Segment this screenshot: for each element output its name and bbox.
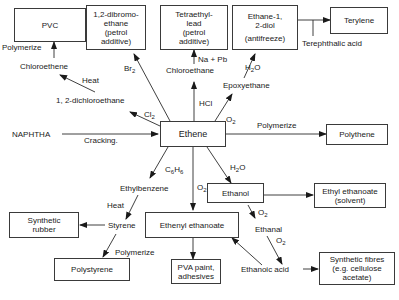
box-text-line: Synthetic xyxy=(28,216,61,225)
box-text-line: additive) xyxy=(179,37,209,46)
label-chloroethane: Chloroethane xyxy=(166,66,214,75)
label-polymerize-pvc: Polymerize xyxy=(2,43,42,52)
box-text-line: (solvent) xyxy=(335,196,366,205)
box-tetraethyl-lead: Tetraethyl- lead (petrol additive) xyxy=(160,5,228,50)
label-chloroethene: Chloroethene xyxy=(20,62,68,71)
label-o2-ethanal: O2 xyxy=(276,236,286,245)
box-text-line: Ethyl ethanoate xyxy=(322,187,378,196)
label-o2-mid: O2 xyxy=(197,183,207,192)
label-polymerize-ps: Polymerize xyxy=(115,248,155,257)
box-text-line: (petrol xyxy=(183,28,206,37)
label-h2o-mid: H2O xyxy=(230,163,245,172)
box-ethane-diol: Ethane-1, 2-diol (antifreeze) xyxy=(232,5,298,50)
label-hcl: HCl xyxy=(199,99,212,108)
box-pvc: PVC xyxy=(14,8,86,42)
label-c6h6: C6H6 xyxy=(165,165,183,174)
box-polythene: Polythene xyxy=(326,124,388,145)
box-text-line: Ethane-1, xyxy=(248,12,283,21)
box-text-line: rubber xyxy=(32,225,55,234)
label-epoxyethane: Epoxyethane xyxy=(223,81,270,90)
box-text-line: Tetraethyl- xyxy=(175,10,212,19)
box-text-line: Ethenyl ethanoate xyxy=(160,221,225,230)
box-pvc-text: PVC xyxy=(42,21,58,30)
label-dichloroethane: 1, 2-dichloroethane xyxy=(56,96,125,105)
box-text-line: (petrol xyxy=(105,28,128,37)
box-ethyl-ethanoate: Ethyl ethanoate (solvent) xyxy=(314,183,386,208)
box-ethanol: Ethanol xyxy=(207,183,264,203)
label-naphtha: NAPHTHA xyxy=(12,130,50,139)
label-heat-2: Heat xyxy=(107,201,124,210)
box-text-line: Ethene xyxy=(179,130,208,139)
label-heat-1: Heat xyxy=(82,76,99,85)
box-text-line: additive) xyxy=(101,37,131,46)
box-synthetic-rubber: Synthetic rubber xyxy=(9,212,79,238)
box-terylene: Terylene xyxy=(330,7,388,34)
label-ethanoic-acid: Ethanoic acid xyxy=(241,265,289,274)
box-text-line: (antifreeze) xyxy=(245,34,285,43)
box-pva: PVA paint, adhesives xyxy=(171,259,221,284)
box-text-line: Terylene xyxy=(344,16,374,25)
box-text-line: 1,2-dibromo- xyxy=(93,10,138,19)
label-ethanal: Ethanal xyxy=(255,225,282,234)
box-text-line: Ethanol xyxy=(222,189,249,198)
label-cracking: Cracking. xyxy=(84,136,118,145)
formula-text: Cl xyxy=(144,110,152,119)
ethene-chemistry-flowchart: PVC 1,2-dibromo- ethane (petrol additive… xyxy=(0,0,399,300)
label-styrene: Styrene xyxy=(108,221,136,230)
label-br2: Br2 xyxy=(124,64,135,73)
box-ethenyl-ethanoate: Ethenyl ethanoate xyxy=(145,212,239,238)
label-o2-ethanol: O2 xyxy=(258,208,268,217)
box-text-line: adhesives xyxy=(178,272,214,281)
box-text-line: (e.g. cellulose xyxy=(332,264,381,273)
label-cl2: Cl2 xyxy=(144,110,155,119)
formula-text: Br xyxy=(124,64,132,73)
box-text-line: lead xyxy=(186,19,201,28)
box-text-line: Polythene xyxy=(339,130,375,139)
box-text-line: PVA paint, xyxy=(178,263,215,272)
box-text-line: 2-diol xyxy=(255,21,275,30)
label-ethylbenzene: Ethylbenzene xyxy=(120,184,168,193)
label-na-pb: Na + Pb xyxy=(198,55,227,64)
box-dibromoethane: 1,2-dibromo- ethane (petrol additive) xyxy=(86,5,146,50)
label-h2o-top: H2O xyxy=(245,63,260,72)
box-ethene: Ethene xyxy=(160,121,226,147)
label-terephthalic: Terephthalic acid xyxy=(302,39,362,48)
box-text-line: Synthetic fibres xyxy=(330,255,385,264)
box-text-line: ethane xyxy=(104,19,128,28)
box-synthetic-fibres: Synthetic fibres (e.g. cellulose acetate… xyxy=(319,252,395,285)
box-text-line: acetate) xyxy=(343,273,372,282)
box-text-line: Polystyrene xyxy=(71,265,113,274)
label-polymerize-pe: Polymerize xyxy=(257,121,297,130)
label-o2-top: O2 xyxy=(226,115,236,124)
box-polystyrene: Polystyrene xyxy=(54,258,130,281)
